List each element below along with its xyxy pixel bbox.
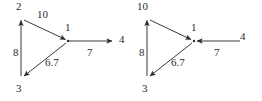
- right-edge-weight-3-10: 8: [139, 47, 145, 58]
- figure-canvas: 2 1 3 4 10 8 6.7 7 10 1 3 4 8 6.7 7: [0, 0, 262, 101]
- left-edge-weight-2-1: 10: [37, 9, 48, 20]
- left-node-label-4: 4: [119, 34, 125, 45]
- left-node-label-1: 1: [65, 22, 71, 33]
- node-1-dot: [67, 40, 69, 42]
- right-node-label-4: 4: [240, 31, 246, 42]
- right-edge-weight-4-1: 7: [214, 47, 220, 58]
- left-edge-weight-3-2: 8: [13, 47, 19, 58]
- node-1-dot: [193, 40, 195, 42]
- edge-2-to-1: [24, 20, 66, 40]
- edge-10-to-1: [150, 20, 191, 40]
- left-edge-weight-1-4: 7: [87, 47, 93, 58]
- right-node-label-10: 10: [137, 1, 148, 12]
- left-node-label-2: 2: [16, 1, 22, 12]
- left-edge-weight-1-3: 6.7: [45, 57, 59, 68]
- right-node-label-1: 1: [191, 22, 197, 33]
- right-node-label-3: 3: [142, 83, 148, 94]
- right-edge-weight-1-3: 6.7: [171, 57, 185, 68]
- left-node-label-3: 3: [16, 83, 22, 94]
